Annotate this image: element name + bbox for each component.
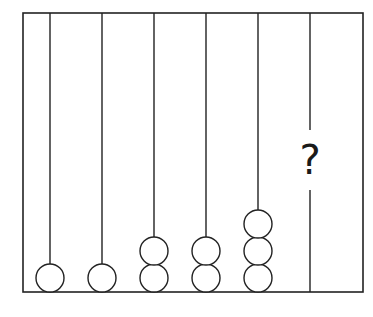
bead-rod-3-1 <box>140 264 168 292</box>
bead-rod-5-2 <box>244 237 272 265</box>
bead-rod-5-1 <box>244 264 272 292</box>
bead-rod-4-2 <box>192 237 220 265</box>
bead-rod-1-1 <box>36 264 64 292</box>
unknown-count-label: ? <box>299 137 320 183</box>
bead-rod-5-3 <box>244 210 272 238</box>
abacus-diagram: ? <box>0 0 373 317</box>
bead-rod-3-2 <box>140 237 168 265</box>
bead-rod-2-1 <box>88 264 116 292</box>
bead-rod-4-1 <box>192 264 220 292</box>
abacus-svg: ? <box>0 0 373 317</box>
